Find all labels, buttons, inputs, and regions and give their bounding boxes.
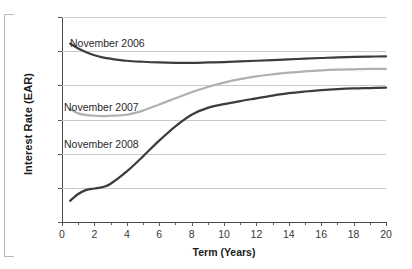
x-tick-mark — [192, 222, 193, 226]
x-tick-mark — [94, 222, 95, 226]
page-edge-decoration — [4, 14, 14, 257]
x-tick-mark — [240, 222, 241, 225]
plot-area: 0%1%2%3%4%5%6% 02468101214161820 Novembe… — [62, 17, 386, 222]
x-tick-mark — [159, 222, 160, 226]
x-tick-mark — [62, 222, 63, 226]
x-tick-label: 10 — [209, 228, 239, 240]
x-tick-mark — [273, 222, 274, 225]
x-axis-title: Term (Years) — [62, 246, 386, 258]
series-label-1: November 2006 — [70, 37, 145, 49]
x-tick-label: 20 — [371, 228, 401, 240]
x-tick-label: 14 — [274, 228, 304, 240]
x-tick-label: 18 — [339, 228, 369, 240]
x-tick-mark — [224, 222, 225, 226]
x-tick-mark — [143, 222, 144, 225]
x-tick-mark — [175, 222, 176, 225]
x-tick-label: 2 — [79, 228, 109, 240]
x-tick-mark — [370, 222, 371, 225]
x-tick-mark — [256, 222, 257, 226]
x-tick-label: 16 — [306, 228, 336, 240]
x-tick-label: 12 — [241, 228, 271, 240]
series-label-2: November 2007 — [64, 101, 139, 113]
x-tick-label: 8 — [177, 228, 207, 240]
x-tick-mark — [78, 222, 79, 225]
x-tick-label: 6 — [144, 228, 174, 240]
y-axis-title: Interest Rate (EAR) — [22, 44, 34, 204]
x-tick-mark — [208, 222, 209, 225]
x-tick-mark — [321, 222, 322, 226]
chart-figure: Interest Rate (EAR) Term (Years) 0%1%2%3… — [0, 0, 412, 269]
series-label-3: November 2008 — [64, 138, 139, 150]
x-tick-mark — [111, 222, 112, 225]
x-tick-mark — [337, 222, 338, 225]
x-tick-label: 4 — [112, 228, 142, 240]
x-tick-mark — [354, 222, 355, 226]
x-tick-mark — [127, 222, 128, 226]
x-tick-mark — [305, 222, 306, 225]
x-tick-label: 0 — [47, 228, 77, 240]
x-tick-mark — [289, 222, 290, 226]
x-tick-mark — [386, 222, 387, 226]
